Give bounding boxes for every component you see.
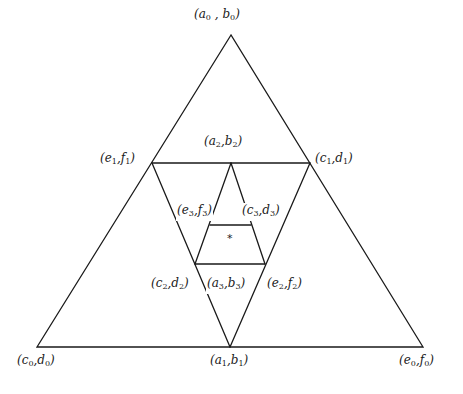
vertex-label-c3d3: (c3,d3) bbox=[241, 203, 281, 221]
outer-triangle bbox=[37, 35, 423, 347]
left-inner-edge bbox=[152, 163, 230, 347]
center-mark: * bbox=[227, 232, 233, 245]
vertex-label-e1f1: (e1,f1) bbox=[99, 151, 136, 169]
vertex-label-c0d0: (c0,d0) bbox=[16, 353, 56, 371]
right-inner-edge bbox=[230, 163, 310, 347]
vertex-label-c1d1: (c1,d1) bbox=[314, 151, 354, 169]
triangle-subdivision-diagram bbox=[0, 0, 463, 394]
vertex-label-e0f0: (e0,f0) bbox=[398, 353, 435, 371]
vertex-label-a3b3: (a3,b3) bbox=[206, 276, 246, 294]
vertex-label-e2f2: (e2,f2) bbox=[266, 276, 303, 294]
vertex-label-e3f3: (e3,f3) bbox=[176, 203, 213, 221]
vertex-label-a2b2: (a2,b2) bbox=[203, 134, 243, 152]
vertex-label-a0b0: (a0 , b0) bbox=[193, 7, 241, 25]
vertex-label-c2d2: (c2,d2) bbox=[150, 276, 190, 294]
vertex-label-a1b1: (a1,b1) bbox=[209, 353, 249, 371]
